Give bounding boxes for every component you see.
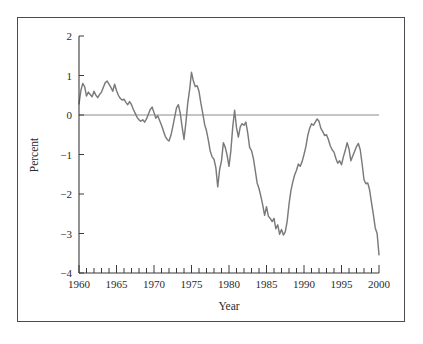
y-tick-label: 2 [67, 30, 73, 42]
y-tick-label: −2 [60, 188, 72, 200]
y-tick-group: 210−1−2−3−4 [60, 30, 84, 279]
y-tick-label: 0 [67, 109, 73, 121]
y-tick-label: −1 [60, 149, 72, 161]
series-line-percent [79, 72, 379, 254]
y-tick-label: 1 [67, 70, 73, 82]
x-tick-label: 1975 [181, 278, 204, 290]
x-tick-label: 1970 [143, 278, 166, 290]
figure-frame: 210−1−2−3−4 1960196519701975198019851990… [17, 17, 405, 322]
x-axis-title: Year [218, 300, 239, 312]
x-tick-label: 2000 [368, 278, 391, 290]
x-axis: 196019651970197519801985199019952000 [68, 265, 391, 290]
x-tick-label: 1985 [256, 278, 279, 290]
x-tick-label: 1980 [218, 278, 241, 290]
figure-root: 210−1−2−3−4 1960196519701975198019851990… [0, 0, 423, 344]
x-tick-label: 1990 [293, 278, 316, 290]
x-tick-group: 196019651970197519801985199019952000 [68, 265, 391, 290]
x-tick-label: 1960 [68, 278, 91, 290]
y-axis: 210−1−2−3−4 [60, 30, 84, 279]
y-axis-title: Percent [28, 137, 40, 172]
x-tick-label: 1995 [331, 278, 354, 290]
plot-area [79, 72, 379, 254]
line-chart: 210−1−2−3−4 1960196519701975198019851990… [18, 18, 404, 321]
y-tick-label: −3 [60, 228, 72, 240]
x-tick-label: 1965 [106, 278, 129, 290]
